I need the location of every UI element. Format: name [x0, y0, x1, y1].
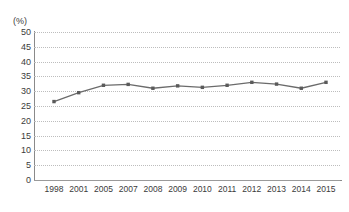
line-chart: (%) 05101520253035404550 199820012005200… — [0, 0, 349, 212]
y-axis-tick-labels: 05101520253035404550 — [0, 32, 31, 180]
data-point-2013 — [275, 82, 278, 85]
data-point-2005 — [102, 84, 105, 87]
x-axis-tick-labels: 1998200120052007200820092010201120122013… — [34, 184, 340, 204]
x-tick-label-2013: 2013 — [267, 184, 286, 194]
data-point-2007 — [126, 83, 129, 86]
x-tick-label-2014: 2014 — [292, 184, 311, 194]
y-tick-label-0: 0 — [26, 175, 31, 185]
data-point-1998 — [52, 100, 55, 103]
y-tick-label-10: 10 — [21, 145, 31, 155]
plot-area — [34, 32, 340, 180]
data-point-2014 — [300, 87, 303, 90]
y-tick-label-35: 35 — [21, 71, 31, 81]
x-tick-label-2015: 2015 — [317, 184, 336, 194]
data-point-2010 — [201, 86, 204, 89]
data-point-2008 — [151, 87, 154, 90]
y-tick-label-40: 40 — [21, 57, 31, 67]
y-tick-label-5: 5 — [26, 160, 31, 170]
y-tick-label-45: 45 — [21, 42, 31, 52]
data-point-2015 — [324, 81, 327, 84]
x-tick-label-2009: 2009 — [168, 184, 187, 194]
y-axis-unit-label: (%) — [13, 16, 27, 26]
x-tick-label-2001: 2001 — [69, 184, 88, 194]
y-tick-label-50: 50 — [21, 27, 31, 37]
x-tick-label-2010: 2010 — [193, 184, 212, 194]
data-point-2001 — [77, 91, 80, 94]
series-markers — [52, 81, 327, 104]
x-tick-label-2008: 2008 — [143, 184, 162, 194]
data-point-2009 — [176, 84, 179, 87]
data-point-2011 — [225, 84, 228, 87]
x-tick-label-1998: 1998 — [45, 184, 64, 194]
x-tick-label-2007: 2007 — [119, 184, 138, 194]
x-tick-label-2005: 2005 — [94, 184, 113, 194]
y-tick-label-20: 20 — [21, 116, 31, 126]
x-tick-label-2011: 2011 — [218, 184, 236, 194]
y-tick-label-25: 25 — [21, 101, 31, 111]
data-point-2012 — [250, 81, 253, 84]
y-tick-label-15: 15 — [21, 131, 31, 141]
gridline-0 — [34, 180, 340, 181]
y-tick-label-30: 30 — [21, 86, 31, 96]
x-tick-label-2012: 2012 — [242, 184, 261, 194]
series-line — [54, 82, 326, 101]
data-series-layer — [34, 32, 340, 180]
